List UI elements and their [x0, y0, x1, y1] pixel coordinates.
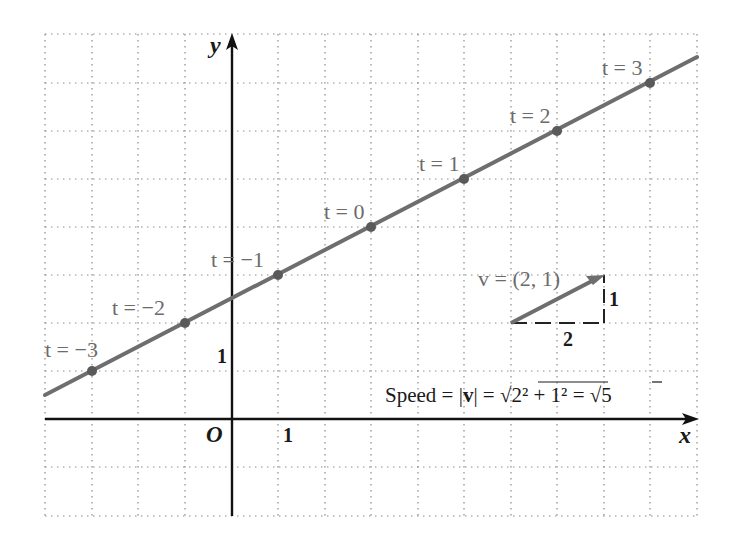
y-tick-1: 1	[217, 345, 227, 367]
velocity-vector: v = (2, 1) 2 1	[478, 266, 619, 350]
vector-dx-label: 2	[563, 328, 573, 350]
t-label-neg1: t = −1	[211, 247, 264, 272]
x-tick-1: 1	[283, 424, 293, 446]
point-t-neg1	[273, 270, 283, 280]
origin-label: O	[206, 422, 223, 447]
t-label-3: t = 3	[602, 55, 643, 80]
speed-mid: | = √	[473, 383, 512, 407]
point-t-2	[552, 126, 562, 136]
y-axis-label: y	[207, 32, 221, 58]
point-t-1	[459, 174, 469, 184]
t-label-1: t = 1	[419, 151, 460, 176]
t-label-2: t = 2	[510, 103, 551, 128]
point-t-neg3	[87, 366, 97, 376]
speed-result: = √5	[567, 383, 611, 407]
vector-label: v = (2, 1)	[478, 266, 560, 291]
speed-formula: Speed = |v| = √2² + 1² = √5	[385, 382, 662, 407]
t-label-neg3: t = −3	[45, 337, 98, 362]
point-t-neg2	[180, 318, 190, 328]
speed-radicand: 2² + 1²	[511, 383, 567, 407]
x-axis-label: x	[678, 422, 691, 448]
point-t-0	[366, 222, 376, 232]
t-label-0: t = 0	[324, 199, 365, 224]
speed-v: v	[463, 383, 474, 407]
parametric-line-figure: y x O 1 1 t = −3 t = −2 t = −1 t = 0 t =…	[0, 0, 731, 539]
point-t-3	[645, 78, 655, 88]
speed-prefix: Speed = |	[385, 383, 463, 407]
vector-dy-label: 1	[609, 288, 619, 310]
t-label-neg2: t = −2	[112, 295, 165, 320]
svg-text:Speed = |v| = √2² + 1² = √5: Speed = |v| = √2² + 1² = √5	[385, 383, 612, 407]
